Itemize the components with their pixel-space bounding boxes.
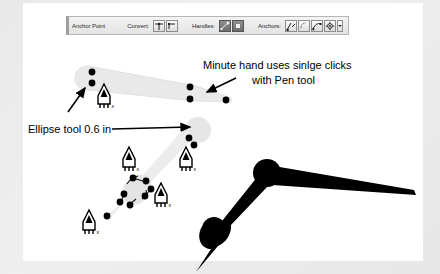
svg-text:x: x <box>112 103 115 109</box>
arrow-to-minute-hand-hub <box>68 88 85 112</box>
pen-tool-cursor: x <box>83 210 100 235</box>
pen-tool-cursor: x <box>180 147 197 172</box>
arrow-to-minute-hand-tip <box>207 78 236 92</box>
pen-tool-cursor: x <box>123 147 140 172</box>
clock-hands-solid-artwork <box>196 159 416 272</box>
svg-text:x: x <box>194 166 197 172</box>
svg-text:x: x <box>97 229 100 235</box>
annotation-minute-hand-line1: Minute hand uses sinlge clicks <box>203 59 352 71</box>
illustration-artwork: x x x x x Minute <box>0 0 440 274</box>
screenshot-root: Anchor Point Convert: Handles: <box>0 0 440 274</box>
svg-text:x: x <box>169 202 172 208</box>
svg-text:x: x <box>137 166 140 172</box>
annotation-minute-hand-line2: with Pen tool <box>251 74 315 86</box>
pen-tool-cursor: x <box>155 183 172 208</box>
annotation-ellipse-tool: Ellipse tool 0.6 in <box>28 123 111 135</box>
arrow-ellipse-leader <box>112 127 190 129</box>
